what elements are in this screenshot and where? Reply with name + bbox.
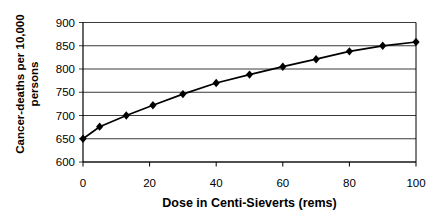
data-point-marker-70 [313, 55, 320, 63]
y-tick-label-750: 750 [56, 86, 75, 98]
data-point-marker-0 [79, 135, 86, 143]
x-tick-label-100: 100 [406, 177, 425, 189]
data-point-marker-30 [179, 90, 186, 98]
y-tick-label-900: 900 [56, 17, 75, 29]
y-axis-title-line2: persons [28, 14, 42, 154]
plot-svg: 600650700750800850900020406080100 [0, 0, 443, 222]
data-point-marker-13 [123, 111, 130, 119]
y-tick-label-600: 600 [56, 156, 75, 168]
y-tick-label-850: 850 [56, 40, 75, 52]
dose-response-chart: 600650700750800850900020406080100 Cancer… [0, 0, 443, 222]
x-tick-label-20: 20 [143, 177, 156, 189]
data-point-marker-50 [246, 70, 253, 78]
y-tick-label-700: 700 [56, 110, 75, 122]
y-tick-label-800: 800 [56, 63, 75, 75]
data-point-marker-21 [149, 101, 156, 109]
series-line [83, 42, 416, 139]
x-tick-label-60: 60 [276, 177, 289, 189]
x-tick-label-0: 0 [80, 177, 86, 189]
x-tick-label-80: 80 [343, 177, 356, 189]
data-point-marker-80 [346, 47, 353, 55]
data-point-marker-90 [379, 42, 386, 50]
x-axis-title: Dose in Centi-Sieverts (rems) [83, 196, 416, 210]
y-tick-label-650: 650 [56, 133, 75, 145]
y-axis-title-line1: Cancer-deaths per 10,000 [14, 14, 28, 154]
x-tick-label-40: 40 [210, 177, 223, 189]
data-point-marker-40 [213, 79, 220, 87]
y-axis-title: Cancer-deaths per 10,000 persons [14, 14, 44, 154]
data-point-marker-60 [279, 62, 286, 70]
data-point-marker-100 [412, 38, 419, 46]
